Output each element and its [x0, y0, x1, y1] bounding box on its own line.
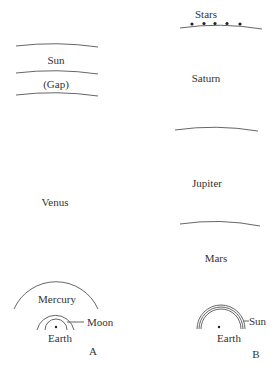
panel-a-venus-label: Venus: [42, 197, 69, 208]
panel-a-moon-label: Moon: [87, 317, 113, 328]
panel-a-earth-label: Earth: [48, 333, 72, 344]
panel-b-arc-stars: [180, 25, 262, 29]
star-dot: [213, 22, 216, 25]
panel-b-arc-saturn: [175, 127, 258, 131]
star-dot: [225, 22, 228, 25]
panel-b-saturn-label: Saturn: [192, 73, 221, 84]
panel-a-arc-sun-top: [16, 44, 98, 47]
panel-b-earth-dot: [218, 326, 220, 328]
panel-b-id-label: B: [252, 349, 259, 360]
panel-a-earth-dot: [55, 326, 57, 328]
panel-a-id-label: A: [89, 346, 97, 357]
panel-b-jupiter-label: Jupiter: [192, 178, 222, 189]
panel-b-sun-label: Sun: [249, 316, 266, 327]
panel-a-moon-arc: [45, 319, 67, 330]
panel-b-stars-label: Stars: [195, 9, 217, 20]
star-dot: [238, 22, 241, 25]
panel-b-mars-label: Mars: [205, 253, 228, 264]
star-dot: [202, 22, 205, 25]
panel-b-arc-jupiter: [180, 221, 260, 226]
panel-a-arc-sun-bottom: [16, 71, 98, 74]
panel-b-earth-label: Earth: [217, 333, 241, 344]
panel-a-sun-label: Sun: [47, 55, 64, 66]
panel-a-gap-label: (Gap): [43, 79, 69, 90]
panel-a-mercury-label: Mercury: [38, 294, 76, 305]
diagram-canvas: [0, 0, 271, 366]
star-dot: [190, 22, 193, 25]
panel-a-arc-gap-bottom: [16, 93, 98, 96]
